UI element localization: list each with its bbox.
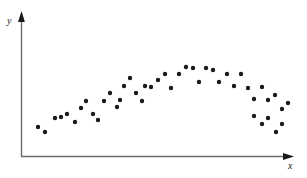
data-point	[140, 99, 144, 103]
data-point	[134, 91, 138, 95]
data-point	[232, 84, 236, 88]
data-point	[273, 93, 277, 97]
data-point	[184, 65, 188, 69]
data-point	[53, 116, 57, 120]
data-point	[252, 97, 256, 101]
data-point	[43, 130, 47, 134]
data-point	[96, 118, 100, 122]
data-point	[246, 86, 250, 90]
data-point	[266, 116, 270, 120]
data-point	[225, 72, 229, 76]
scatter-plot-figure: y x	[0, 0, 307, 178]
data-point-group	[36, 65, 290, 134]
data-point	[260, 122, 264, 126]
data-point	[211, 68, 215, 72]
data-point	[260, 85, 264, 89]
data-point	[65, 112, 69, 116]
x-axis-label: x	[288, 161, 292, 171]
data-point	[239, 72, 243, 76]
data-point	[84, 99, 88, 103]
data-point	[91, 112, 95, 116]
data-point	[280, 122, 284, 126]
data-point	[197, 80, 201, 84]
data-point	[204, 66, 208, 70]
data-point	[177, 72, 181, 76]
data-point	[36, 125, 40, 129]
x-axis-arrowhead	[283, 153, 294, 160]
data-point	[102, 99, 106, 103]
data-point	[217, 80, 221, 84]
data-point	[122, 84, 126, 88]
data-point	[163, 72, 167, 76]
data-point	[280, 107, 284, 111]
data-point	[156, 78, 160, 82]
data-point	[274, 130, 278, 134]
data-point	[115, 105, 119, 109]
y-axis-label: y	[7, 16, 11, 26]
data-point	[143, 84, 147, 88]
data-point	[128, 76, 132, 80]
data-point	[266, 98, 270, 102]
data-point	[286, 101, 290, 105]
data-point	[73, 120, 77, 124]
data-point	[191, 66, 195, 70]
data-point	[169, 86, 173, 90]
plot-canvas	[0, 0, 307, 178]
data-point	[59, 115, 63, 119]
data-point	[252, 114, 256, 118]
y-axis-arrowhead	[18, 11, 25, 22]
data-point	[149, 85, 153, 89]
data-point	[79, 106, 83, 110]
data-point	[108, 91, 112, 95]
data-point	[118, 98, 122, 102]
